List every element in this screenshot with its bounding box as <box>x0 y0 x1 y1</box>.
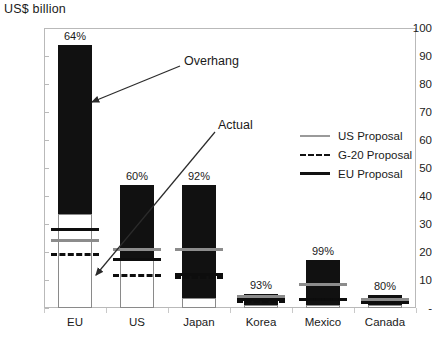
x-axis-category-label: Japan <box>183 316 214 328</box>
y-axis-tick-label: 90 <box>398 50 432 62</box>
g20-proposal-marker <box>175 276 223 279</box>
annotation-actual: Actual <box>218 118 253 132</box>
bar-data-label: 99% <box>312 245 334 257</box>
x-axis-tick <box>354 308 355 313</box>
y-axis-tick <box>44 252 49 253</box>
eu-proposal-marker <box>113 258 161 261</box>
bar-data-label: 92% <box>188 170 210 182</box>
x-axis-tick <box>44 308 45 313</box>
x-axis-tick <box>168 308 169 313</box>
legend-item-eu-proposal: EU Proposal <box>300 164 426 183</box>
bar-data-label: 64% <box>64 30 86 42</box>
bar-segment-overhang <box>182 185 216 298</box>
x-axis-tick <box>292 308 293 313</box>
bar-data-label: 80% <box>374 280 396 292</box>
y-axis-tick <box>44 168 49 169</box>
us-proposal-marker <box>175 248 223 251</box>
x-axis-category-label: Mexico <box>305 316 341 328</box>
y-axis-tick <box>44 28 49 29</box>
eu-proposal-marker <box>51 228 99 231</box>
annotation-overhang: Overhang <box>184 54 239 68</box>
y-axis-tick-label: 30 <box>398 218 432 230</box>
us-proposal-marker <box>237 295 285 298</box>
bar-segment-actual <box>306 305 340 308</box>
y-axis-tick-label: 80 <box>398 78 432 90</box>
x-axis-tick <box>416 308 417 313</box>
legend: US Proposal G-20 Proposal EU Proposal <box>300 126 426 183</box>
y-axis-tick-label: 100 <box>398 22 432 34</box>
us-proposal-line-icon <box>300 131 330 141</box>
x-axis-category-label: Canada <box>365 316 405 328</box>
y-axis-tick <box>44 280 49 281</box>
g20-proposal-line-icon <box>300 150 330 160</box>
bar-data-label: 60% <box>126 170 148 182</box>
y-axis-tick <box>44 224 49 225</box>
y-axis-tick-label: 40 <box>398 190 432 202</box>
y-axis-tick <box>44 140 49 141</box>
us-proposal-marker <box>51 239 99 242</box>
legend-item-us-proposal: US Proposal <box>300 126 426 145</box>
y-axis-tick-label: 20 <box>398 246 432 258</box>
g20-proposal-marker <box>51 253 99 256</box>
y-axis-tick-label: 10 <box>398 274 432 286</box>
us-proposal-marker <box>113 248 161 251</box>
eu-proposal-line-icon <box>300 169 330 179</box>
us-proposal-marker <box>299 283 347 286</box>
legend-label: G-20 Proposal <box>338 149 412 161</box>
x-axis-tick <box>230 308 231 313</box>
y-axis-tick-label: 70 <box>398 106 432 118</box>
bar-segment-actual <box>120 259 154 308</box>
x-axis-category-label: Korea <box>246 316 277 328</box>
x-axis-category-label: EU <box>67 316 83 328</box>
g20-proposal-marker <box>299 298 347 301</box>
bar-segment-actual <box>244 305 278 308</box>
x-axis-category-label: US <box>129 316 145 328</box>
bar-segment-actual <box>182 298 216 308</box>
y-axis-tick <box>44 56 49 57</box>
legend-label: EU Proposal <box>338 168 403 180</box>
y-axis-tick <box>44 196 49 197</box>
legend-label: US Proposal <box>338 130 403 142</box>
y-axis-tick <box>44 84 49 85</box>
bar-segment-actual <box>368 305 402 308</box>
legend-item-g20-proposal: G-20 Proposal <box>300 145 426 164</box>
y-axis-tick <box>44 112 49 113</box>
g20-proposal-marker <box>361 301 409 304</box>
bar-chart: US$ billion -102030405060708090100 64%60… <box>0 0 432 345</box>
y-axis-title: US$ billion <box>4 2 66 16</box>
bar-segment-overhang <box>58 45 92 214</box>
g20-proposal-marker <box>237 300 285 303</box>
g20-proposal-marker <box>113 274 161 277</box>
bar-data-label: 93% <box>250 279 272 291</box>
x-axis-tick <box>106 308 107 313</box>
